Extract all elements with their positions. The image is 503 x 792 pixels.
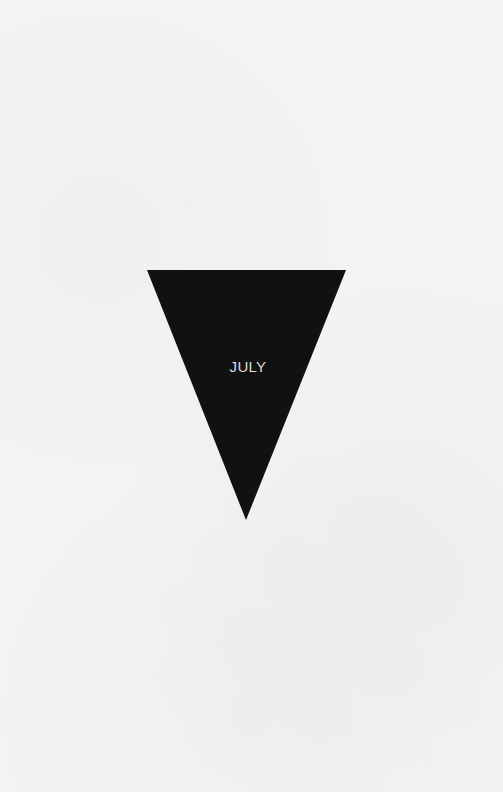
- month-label: JULY: [196, 358, 300, 376]
- poster-page: JULY: [0, 0, 503, 792]
- pennant-shape: [147, 270, 346, 520]
- pennant-triangle-icon: [0, 0, 503, 792]
